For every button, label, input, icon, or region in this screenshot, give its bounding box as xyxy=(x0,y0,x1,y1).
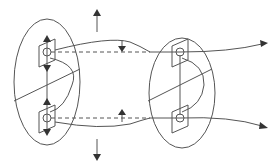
top-field-line xyxy=(55,40,262,52)
right-inner-arc xyxy=(182,58,204,112)
left-top-up-arrowhead xyxy=(43,35,51,42)
left-bottom-down-arrowhead xyxy=(43,129,51,136)
left-inner-arc xyxy=(50,58,74,112)
left-top-down-arrowhead xyxy=(43,65,51,72)
bottom-field-arrowhead xyxy=(118,109,126,115)
coupled-loops-diagram xyxy=(0,0,277,165)
left-bottom-up-arrowhead xyxy=(43,98,51,105)
bottom-exit-arrowhead xyxy=(259,122,268,129)
top-exit-arrowhead xyxy=(260,40,268,47)
right-loop xyxy=(149,38,215,148)
bottom-field-line xyxy=(55,118,262,127)
down-arrowhead xyxy=(93,154,101,161)
top-field-arrowhead xyxy=(118,46,126,52)
up-arrowhead xyxy=(93,9,101,16)
